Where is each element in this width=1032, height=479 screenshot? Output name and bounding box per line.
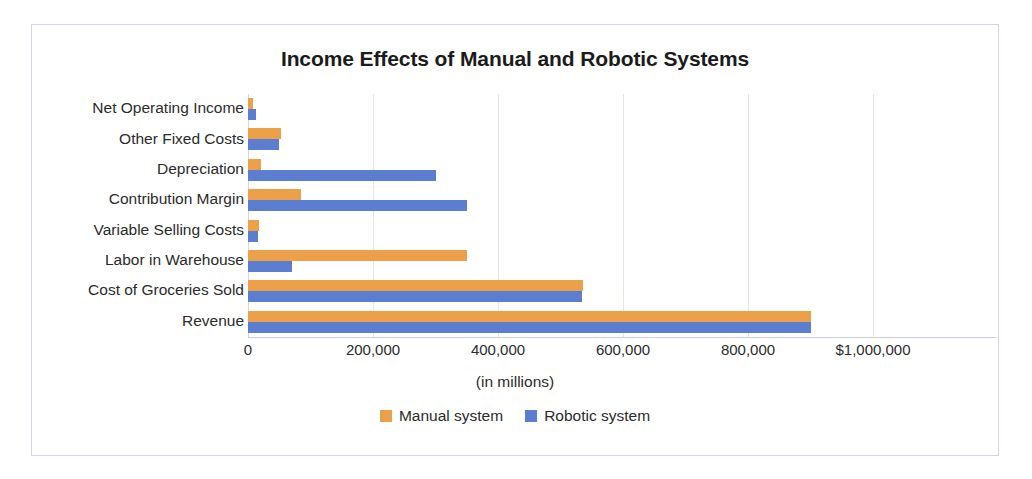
category-label-3: Contribution Margin xyxy=(32,190,244,208)
bar-manual-7 xyxy=(248,311,811,322)
x-axis-tick-labels: 0200,000400,000600,000800,000$1,000,000 xyxy=(248,341,996,365)
x-tick-label-1: 200,000 xyxy=(346,341,400,358)
chart-title: Income Effects of Manual and Robotic Sys… xyxy=(32,47,998,71)
chart-figure: Income Effects of Manual and Robotic Sys… xyxy=(31,24,999,456)
bar-manual-3 xyxy=(248,189,301,200)
bar-group xyxy=(248,216,996,246)
bar-group xyxy=(248,124,996,154)
bar-robotic-0 xyxy=(248,109,256,120)
chart-legend: Manual systemRobotic system xyxy=(32,407,998,425)
legend-label: Manual system xyxy=(399,407,503,425)
bar-groups xyxy=(248,94,996,337)
x-tick-label-2: 400,000 xyxy=(471,341,525,358)
x-tick-label-3: 600,000 xyxy=(596,341,650,358)
x-tick-label-5: $1,000,000 xyxy=(835,341,910,358)
category-label-2: Depreciation xyxy=(32,160,244,178)
bar-robotic-3 xyxy=(248,200,467,211)
category-label-4: Variable Selling Costs xyxy=(32,221,244,239)
plot-area xyxy=(248,94,996,337)
bar-manual-6 xyxy=(248,280,583,291)
category-label-6: Cost of Groceries Sold xyxy=(32,281,244,299)
bar-robotic-4 xyxy=(248,231,258,242)
category-label-0: Net Operating Income xyxy=(32,99,244,117)
legend-item-manual[interactable]: Manual system xyxy=(380,407,503,425)
category-label-1: Other Fixed Costs xyxy=(32,130,244,148)
bar-manual-4 xyxy=(248,220,259,231)
bar-manual-1 xyxy=(248,128,281,139)
bar-robotic-2 xyxy=(248,170,436,181)
bar-manual-5 xyxy=(248,250,467,261)
legend-label: Robotic system xyxy=(544,407,650,425)
x-tick-label-0: 0 xyxy=(244,341,252,358)
bar-robotic-7 xyxy=(248,322,811,333)
x-axis-line xyxy=(248,337,996,338)
bar-manual-2 xyxy=(248,159,261,170)
bar-group xyxy=(248,276,996,306)
bar-group xyxy=(248,307,996,337)
legend-item-robotic[interactable]: Robotic system xyxy=(525,407,650,425)
category-label-7: Revenue xyxy=(32,312,244,330)
bar-manual-0 xyxy=(248,98,253,109)
bar-robotic-6 xyxy=(248,291,582,302)
bar-robotic-5 xyxy=(248,261,292,272)
bar-robotic-1 xyxy=(248,139,279,150)
bar-group xyxy=(248,185,996,215)
bar-group xyxy=(248,246,996,276)
x-tick-label-4: 800,000 xyxy=(721,341,775,358)
category-axis-labels: Net Operating IncomeOther Fixed CostsDep… xyxy=(32,94,244,337)
bar-group xyxy=(248,155,996,185)
legend-swatch-icon xyxy=(525,410,537,422)
x-axis-title: (in millions) xyxy=(32,373,998,391)
bar-group xyxy=(248,94,996,124)
legend-swatch-icon xyxy=(380,410,392,422)
category-label-5: Labor in Warehouse xyxy=(32,251,244,269)
